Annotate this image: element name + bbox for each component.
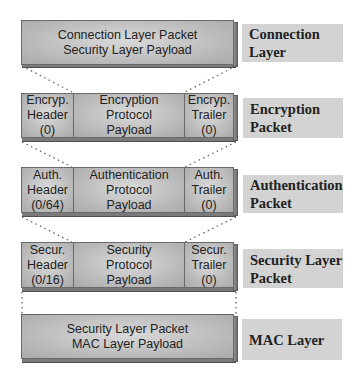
authentication-header-box: Auth. Header (0/64) — [21, 167, 74, 213]
label-line1: Authentication — [250, 176, 343, 194]
encryption-payload-box: Encryption Protocol Payload — [73, 93, 185, 138]
mac-layer-payload-box: Security Layer Packet MAC Layer Payload — [21, 314, 234, 359]
authentication-packet-label: Authentication Packet — [243, 175, 343, 213]
label-line1: MAC Layer — [249, 331, 342, 349]
label-line2: Packet — [250, 194, 343, 212]
label-line1: Encryption — [250, 100, 343, 118]
security-trailer-box: Secur. Trailer (0) — [184, 242, 234, 288]
security-header-box: Secur. Header (0/16) — [21, 242, 74, 288]
connector-right — [185, 66, 236, 92]
authentication-payload-box: Authentication Protocol Payload — [73, 167, 185, 213]
connector-left — [22, 66, 72, 92]
encryption-packet-label: Encryption Packet — [243, 98, 343, 138]
label-line1: Security Layer — [250, 251, 343, 269]
encryption-trailer-box: Encryp. Trailer (0) — [184, 93, 234, 138]
label-line2: Packet — [250, 118, 343, 136]
security-payload-box: Security Protocol Payload — [73, 242, 185, 288]
connection-layer-payload-box: Connection Layer Packet Security Layer P… — [21, 20, 234, 65]
security-layer-packet-label: Security Layer Packet — [243, 249, 343, 288]
label-line2: Layer — [249, 43, 343, 61]
encryption-header-box: Encryp. Header (0) — [21, 93, 74, 138]
label-line1: Connection — [249, 25, 343, 43]
label-line2: Packet — [250, 269, 343, 287]
mac-layer-label: MAC Layer — [242, 319, 342, 360]
connection-layer-label: Connection Layer — [242, 24, 343, 62]
authentication-trailer-box: Auth. Trailer (0) — [184, 167, 234, 213]
